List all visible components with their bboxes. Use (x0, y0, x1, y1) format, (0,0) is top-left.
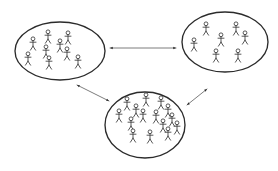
link-top-right-to-bottom[interactable] (187, 89, 207, 105)
diagram-svg (0, 0, 278, 171)
figure-head (47, 56, 51, 60)
figure-head (125, 97, 129, 101)
figure-head (65, 47, 69, 51)
figure-head (214, 49, 218, 53)
figure-head (46, 30, 50, 34)
figure-head (236, 49, 240, 53)
bottom-group[interactable] (105, 92, 185, 158)
figure-head (134, 104, 138, 108)
figure-head (234, 22, 238, 26)
link-left-to-top-right[interactable] (110, 47, 176, 49)
figure-head (161, 119, 165, 123)
figure-head (76, 55, 80, 59)
figure-head (170, 113, 174, 117)
top-right-group[interactable] (182, 12, 268, 72)
figure-head (129, 117, 133, 121)
figure-head (159, 96, 163, 100)
figure-head (166, 104, 170, 108)
link-top-right-to-bottom-line (187, 89, 207, 105)
figure-head (166, 127, 170, 131)
top-right-group-boundary (182, 12, 268, 72)
figure-head (66, 31, 70, 35)
link-left-to-top-right-arrowhead (173, 47, 176, 49)
figure-head (58, 39, 62, 43)
figure-head (148, 130, 152, 134)
figure-head (192, 38, 196, 42)
figure-head (219, 33, 223, 37)
link-left-to-bottom-line (77, 85, 109, 101)
figure-head (175, 121, 179, 125)
bottom-group-boundary (105, 92, 185, 158)
figure-head (144, 93, 148, 97)
figure-head (117, 109, 121, 113)
figure-head (243, 31, 247, 35)
figure-head (44, 45, 48, 49)
left-group-boundary (15, 22, 105, 80)
figure-head (154, 110, 158, 114)
groups-layer (15, 12, 268, 158)
figure-head (131, 129, 135, 133)
link-left-to-bottom[interactable] (77, 85, 109, 101)
figure-head (31, 37, 35, 41)
figure-head (141, 109, 145, 113)
left-group[interactable] (15, 22, 105, 80)
link-left-to-top-right-arrowhead (110, 47, 113, 49)
figure-head (204, 22, 208, 26)
figure-head (26, 52, 30, 56)
diagram-canvas (0, 0, 278, 171)
